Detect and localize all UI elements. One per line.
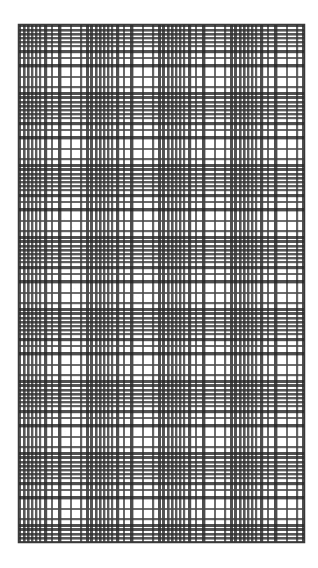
plaid-swatch-image <box>0 0 318 568</box>
plaid-figure <box>0 0 318 568</box>
